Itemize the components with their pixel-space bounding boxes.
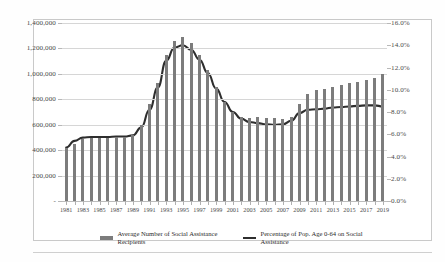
bar bbox=[73, 144, 76, 201]
right-axis-tick-label: 6.0% bbox=[391, 130, 439, 138]
x-axis-tick-label: 2005 bbox=[260, 206, 272, 213]
x-tick bbox=[125, 201, 126, 205]
bar bbox=[173, 41, 176, 201]
bar bbox=[373, 78, 376, 201]
gridline bbox=[62, 23, 387, 24]
x-tick bbox=[358, 201, 359, 205]
bar bbox=[315, 90, 318, 201]
bar bbox=[90, 138, 93, 201]
x-tick bbox=[200, 201, 201, 205]
line-swatch-icon bbox=[243, 237, 256, 240]
legend-item-bars: Average Number of Social Assistance Reci… bbox=[100, 230, 223, 247]
left-axis-tick-label: 1,200,000 bbox=[0, 44, 56, 52]
chart-legend: Average Number of Social Assistance Reci… bbox=[33, 223, 432, 253]
right-axis-tick bbox=[387, 179, 391, 180]
x-tick bbox=[283, 201, 284, 205]
bar bbox=[231, 112, 234, 201]
x-tick bbox=[208, 201, 209, 205]
x-tick bbox=[241, 201, 242, 205]
bar bbox=[165, 55, 168, 201]
x-tick bbox=[133, 201, 134, 205]
right-axis-tick bbox=[387, 134, 391, 135]
x-axis-tick-label: 1989 bbox=[127, 206, 139, 213]
left-axis-tick-label: 600,000 bbox=[0, 121, 56, 129]
right-axis-tick-label: 8.0% bbox=[391, 108, 439, 116]
bar bbox=[340, 85, 343, 201]
x-tick bbox=[325, 201, 326, 205]
right-axis-tick-label: 16.0% bbox=[391, 19, 439, 27]
left-axis-tick bbox=[58, 201, 62, 202]
x-axis-tick-label: 2011 bbox=[310, 206, 322, 213]
bar bbox=[323, 89, 326, 201]
x-axis-tick-label: 1997 bbox=[193, 206, 205, 213]
bar bbox=[123, 137, 126, 201]
right-axis-tick-label: 12.0% bbox=[391, 64, 439, 72]
x-tick bbox=[191, 201, 192, 205]
bar bbox=[115, 137, 118, 201]
x-axis-tick-label: 2007 bbox=[277, 206, 289, 213]
x-axis-tick-label: 1993 bbox=[160, 206, 172, 213]
left-axis-tick bbox=[58, 74, 62, 75]
x-tick bbox=[75, 201, 76, 205]
x-tick bbox=[83, 201, 84, 205]
x-tick bbox=[333, 201, 334, 205]
x-axis-tick-label: 1999 bbox=[210, 206, 222, 213]
x-tick bbox=[341, 201, 342, 205]
bar bbox=[273, 118, 276, 201]
right-axis-tick-label: 14.0% bbox=[391, 41, 439, 49]
left-axis-tick bbox=[58, 23, 62, 24]
gridline bbox=[62, 99, 387, 100]
bar bbox=[215, 87, 218, 201]
right-axis-tick bbox=[387, 68, 391, 69]
x-tick bbox=[308, 201, 309, 205]
bar bbox=[356, 82, 359, 202]
left-axis-tick bbox=[58, 150, 62, 151]
x-tick bbox=[316, 201, 317, 205]
right-axis-tick bbox=[387, 157, 391, 158]
x-axis-tick-label: 2015 bbox=[343, 206, 355, 213]
left-axis-tick-label: 200,000 bbox=[0, 172, 56, 180]
bar bbox=[281, 119, 284, 201]
legend-item-line: Percentage of Pop. Age 0-64 on Social As… bbox=[243, 230, 366, 247]
right-axis-tick bbox=[387, 201, 391, 202]
bar bbox=[181, 37, 184, 201]
plot-area bbox=[62, 23, 387, 201]
x-axis-tick-label: 1987 bbox=[110, 206, 122, 213]
legend-label-bars: Average Number of Social Assistance Reci… bbox=[118, 230, 223, 247]
x-tick bbox=[300, 201, 301, 205]
x-tick bbox=[108, 201, 109, 205]
x-axis-tick-label: 2017 bbox=[360, 206, 372, 213]
gridline bbox=[62, 48, 387, 49]
bar bbox=[81, 139, 84, 201]
bar bbox=[331, 87, 334, 201]
x-axis-tick-label: 2003 bbox=[243, 206, 255, 213]
right-axis-tick bbox=[387, 112, 391, 113]
legend-divider bbox=[33, 252, 432, 253]
x-tick bbox=[225, 201, 226, 205]
x-tick bbox=[375, 201, 376, 205]
x-tick bbox=[66, 201, 67, 205]
bar bbox=[65, 148, 68, 201]
bar bbox=[148, 104, 151, 201]
bar bbox=[198, 55, 201, 201]
bar bbox=[206, 70, 209, 201]
x-tick bbox=[366, 201, 367, 205]
bar bbox=[381, 74, 384, 201]
bar bbox=[348, 83, 351, 201]
bar bbox=[131, 135, 134, 201]
bar bbox=[223, 102, 226, 201]
x-tick bbox=[233, 201, 234, 205]
x-tick bbox=[216, 201, 217, 205]
left-axis-tick bbox=[58, 176, 62, 177]
x-tick bbox=[150, 201, 151, 205]
x-tick bbox=[91, 201, 92, 205]
left-axis-tick-label: 800,000 bbox=[0, 95, 56, 103]
right-axis-tick bbox=[387, 45, 391, 46]
x-axis-tick-label: 2001 bbox=[227, 206, 239, 213]
left-axis-tick-label: 1,000,000 bbox=[0, 70, 56, 78]
x-tick bbox=[100, 201, 101, 205]
bar bbox=[140, 125, 143, 201]
bar bbox=[306, 94, 309, 201]
left-axis-tick bbox=[58, 48, 62, 49]
x-axis-tick-label: 1983 bbox=[77, 206, 89, 213]
